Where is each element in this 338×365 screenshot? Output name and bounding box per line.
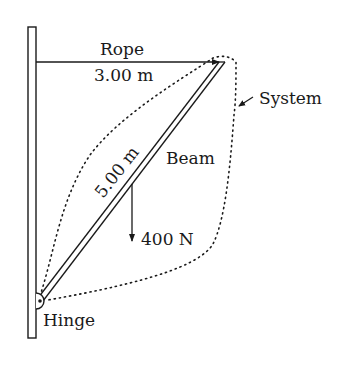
beam-label: Beam [166,148,215,168]
rope-label: Rope [100,39,144,59]
beam-rope-diagram: Rope 3.00 m System Beam 5.00 m 400 N Hin… [0,0,338,365]
system-label: System [259,88,322,108]
rope-length-label: 3.00 m [94,65,153,85]
system-pointer-arrow [239,97,253,106]
weight-label: 400 N [141,229,194,249]
wall [28,27,36,338]
beam [38,62,225,301]
system-boundary [40,56,236,300]
hinge-icon [36,293,44,309]
hinge-label: Hinge [43,310,95,330]
